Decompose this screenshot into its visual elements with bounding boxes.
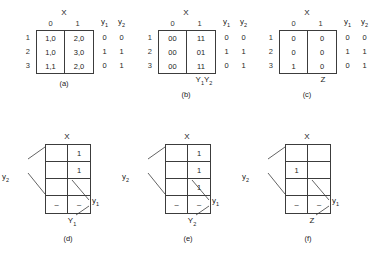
- row-label-3: 3: [18, 58, 33, 72]
- row-labels: 1 2 3: [18, 30, 33, 72]
- cell-r3c0: 1,1: [37, 59, 65, 73]
- kmap-top-label-x: X: [45, 132, 89, 141]
- out-r3c0: 0: [339, 58, 356, 72]
- out-r1c1: 0: [235, 30, 252, 44]
- column-header-0: 0: [159, 19, 186, 28]
- kmap-leader-lines: [260, 144, 330, 216]
- cell-r2c1: 0: [308, 45, 336, 59]
- column-header-1: 1: [307, 19, 334, 28]
- row-label-3: 3: [261, 58, 276, 72]
- out-r3c0: 0: [96, 58, 113, 72]
- output-columns: 0 1 0 0 1 1: [96, 30, 130, 72]
- cell-r1c0: 00: [159, 31, 187, 45]
- out-r1c1: 0: [356, 30, 370, 44]
- out-r2c1: 1: [235, 44, 252, 58]
- kmap-foot-label-Y1: Y1: [52, 216, 92, 225]
- output-column-y1: 0 1 0: [96, 30, 113, 72]
- output-column-y2: 0 1 1: [235, 30, 252, 72]
- foot-label-Z: Z: [303, 75, 343, 84]
- cell-r2c0: 00: [159, 45, 187, 59]
- out-r1c1: 0: [113, 30, 130, 44]
- out-r2c1: 1: [113, 44, 130, 58]
- out-r3c1: 1: [356, 58, 370, 72]
- output-headers: y1 y2: [96, 17, 130, 26]
- output-header-y2: y2: [356, 17, 370, 26]
- column-group-label-x: X: [159, 8, 213, 17]
- row-labels: 1 2 3: [261, 30, 276, 72]
- out-r1c0: 0: [96, 30, 113, 44]
- row-label-2: 2: [18, 44, 33, 58]
- output-column-y1: 0 1 0: [339, 30, 356, 72]
- cell-r2c1: 01: [187, 45, 215, 59]
- output-header-y2: y2: [113, 17, 130, 26]
- column-header-1: 1: [64, 19, 91, 28]
- kmap-foot-label-Y2: Y2: [172, 216, 212, 225]
- out-r2c0: 1: [339, 44, 356, 58]
- output-header-y1: y1: [96, 17, 113, 26]
- column-group-label-x: X: [37, 8, 91, 17]
- kmap-right-label-y1: y1: [212, 196, 219, 205]
- cell-r3c0: 1: [280, 59, 308, 73]
- column-headers: 0 1: [37, 19, 91, 28]
- kmap-left-label-y2: y2: [122, 172, 129, 181]
- cell-r1c1: 11: [187, 31, 215, 45]
- cell-r3c1: 11: [187, 59, 215, 73]
- column-header-0: 0: [280, 19, 307, 28]
- cell-r1c0: 0: [280, 31, 308, 45]
- figure-root: { "figure": { "title_vars": { "x": "X", …: [0, 0, 370, 253]
- row-label-3: 3: [140, 58, 155, 72]
- row-label-1: 1: [18, 30, 33, 44]
- caption-f: (f): [280, 234, 336, 243]
- kmap-leader-lines: [140, 144, 210, 216]
- cell-r2c0: 0: [280, 45, 308, 59]
- column-group-label-x: X: [280, 8, 334, 17]
- out-r3c1: 1: [113, 58, 130, 72]
- kmap-foot-label-Z: Z: [292, 216, 332, 225]
- row-label-2: 2: [261, 44, 276, 58]
- kmap-top-label-x: X: [285, 132, 329, 141]
- cell-r1c1: 2,0: [65, 31, 93, 45]
- cell-r1c0: 1,0: [37, 31, 65, 45]
- kmap-top-label-x: X: [165, 132, 209, 141]
- caption-d: (d): [40, 234, 96, 243]
- out-r3c0: 0: [218, 58, 235, 72]
- cell-r2c1: 3,0: [65, 45, 93, 59]
- output-column-y1: 0 1 0: [218, 30, 235, 72]
- out-r2c1: 1: [356, 44, 370, 58]
- caption-a: (a): [36, 79, 92, 88]
- next-state-grid: 1,0 2,0 1,0 3,0 1,1 2,0: [36, 30, 94, 74]
- next-state-grid: 00 11 00 01 00 11: [158, 30, 216, 74]
- kmap-leader-lines: [20, 144, 90, 216]
- caption-e: (e): [160, 234, 216, 243]
- cell-r3c1: 0: [308, 59, 336, 73]
- output-column-y2: 0 1 1: [113, 30, 130, 72]
- output-headers: y1 y2: [218, 17, 252, 26]
- out-r1c0: 0: [218, 30, 235, 44]
- foot-label-Y1Y2: Y1Y2: [176, 75, 232, 84]
- column-headers: 0 1: [159, 19, 213, 28]
- row-labels: 1 2 3: [140, 30, 155, 72]
- out-r1c0: 0: [339, 30, 356, 44]
- cell-r2c0: 1,0: [37, 45, 65, 59]
- cell-r3c1: 2,0: [65, 59, 93, 73]
- kmap-left-label-y2: y2: [2, 172, 9, 181]
- row-label-2: 2: [140, 44, 155, 58]
- kmap-right-label-y1: y1: [332, 196, 339, 205]
- output-column-y2: 0 1 1: [356, 30, 370, 72]
- kmap-right-label-y1: y1: [92, 196, 99, 205]
- out-r2c0: 1: [96, 44, 113, 58]
- caption-c: (c): [279, 90, 335, 99]
- output-columns: 0 1 0 0 1 1: [218, 30, 252, 72]
- out-r2c0: 1: [218, 44, 235, 58]
- output-state-grid: 0 0 0 0 1 0: [279, 30, 337, 74]
- output-header-y1: y1: [339, 17, 356, 26]
- output-header-y1: y1: [218, 17, 235, 26]
- out-r3c1: 1: [235, 58, 252, 72]
- row-label-1: 1: [261, 30, 276, 44]
- output-columns: 0 1 0 0 1 1: [339, 30, 370, 72]
- column-header-1: 1: [186, 19, 213, 28]
- caption-b: (b): [158, 90, 214, 99]
- column-header-0: 0: [37, 19, 64, 28]
- output-headers: y1 y2: [339, 17, 370, 26]
- output-header-y2: y2: [235, 17, 252, 26]
